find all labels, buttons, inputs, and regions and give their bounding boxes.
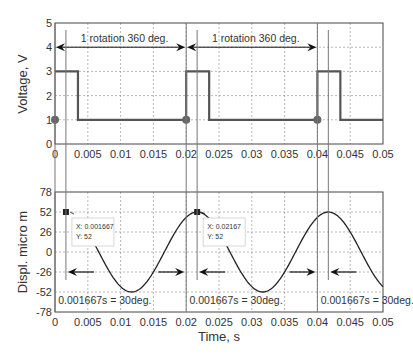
- x-tick-label: 0.01: [110, 316, 131, 328]
- y-tick-label: 0: [46, 246, 52, 258]
- x-tick-label: 0.03: [241, 316, 262, 328]
- datatip-y: Y: 52: [76, 233, 92, 240]
- phase-offset-label: 0.001667s = 30deg.: [321, 294, 413, 306]
- rotation-label: 1 rotation 360 deg.: [81, 32, 169, 44]
- x-tick-label: 0.035: [271, 148, 299, 160]
- vertical-guide-lines: [55, 23, 328, 312]
- y-tick-label: 2: [46, 90, 52, 102]
- y-tick-label: 52: [40, 206, 52, 218]
- x-tick-label: 0.045: [336, 148, 364, 160]
- time-axis-label: Time, s: [198, 329, 241, 344]
- x-tick-label: 0.015: [140, 316, 168, 328]
- y-tick-label: -26: [36, 266, 52, 278]
- phase-offset-label: 0.001667s = 30deg.: [189, 294, 282, 306]
- x-tick-label: 0.01: [110, 148, 131, 160]
- rotation-label: 1 rotation 360 deg.: [212, 32, 300, 44]
- x-tick-label: 0.05: [372, 316, 393, 328]
- x-tick-label: 0.025: [205, 148, 233, 160]
- figure: 00.0050.010.0150.020.0250.030.0350.040.0…: [0, 0, 413, 356]
- x-tick-label: 0.005: [74, 316, 102, 328]
- datatip-y: Y: 52: [207, 233, 223, 240]
- displacement-plot: 00.0050.010.0150.020.0250.030.0350.040.0…: [36, 186, 413, 328]
- y-tick-label: -78: [36, 306, 52, 318]
- y-tick-label: 5: [46, 17, 52, 29]
- datatip-x: X: 0.001667: [76, 223, 114, 230]
- y-tick-label: 78: [40, 186, 52, 198]
- voltage-axis-label: Voltage, V: [15, 54, 30, 114]
- x-tick-label: 0.025: [205, 316, 233, 328]
- x-tick-label: 0.045: [336, 316, 364, 328]
- displacement-axis-label: Displ. micro m: [15, 211, 30, 293]
- x-tick-label: 0.035: [271, 316, 299, 328]
- voltage-plot: 00.0050.010.0150.020.0250.030.0350.040.0…: [46, 17, 394, 160]
- x-tick-label: 0: [52, 316, 58, 328]
- x-tick-label: 0.015: [140, 148, 168, 160]
- y-tick-label: -52: [36, 286, 52, 298]
- y-tick-label: 26: [40, 226, 52, 238]
- x-tick-label: 0.005: [74, 148, 102, 160]
- phase-offset-label: 0.001667s = 30deg.: [58, 294, 151, 306]
- y-tick-label: 0: [46, 138, 52, 150]
- x-tick-label: 0.03: [241, 148, 262, 160]
- datatip-x: X: 0.02167: [207, 223, 241, 230]
- x-tick-label: 0.02: [175, 316, 196, 328]
- x-tick-label: 0.04: [307, 316, 328, 328]
- x-tick-label: 0.05: [372, 148, 393, 160]
- y-tick-label: 4: [46, 41, 52, 53]
- y-tick-label: 3: [46, 65, 52, 77]
